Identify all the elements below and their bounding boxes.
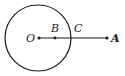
label-a: A [110,32,120,45]
label-b: B [50,22,59,35]
point-o-dot [37,36,40,39]
label-o: O [26,32,35,45]
geometry-diagram: O B C A [0,0,125,76]
diagram-canvas: O B C A [0,0,125,76]
label-c: C [74,22,83,35]
point-b-dot [54,37,57,40]
point-a-dot [105,36,108,39]
